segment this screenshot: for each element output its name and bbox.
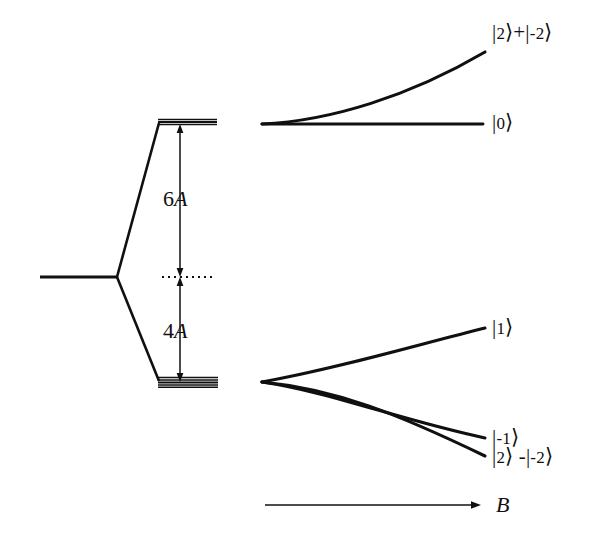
gap-4A-number: 4: [163, 318, 174, 343]
ket-part: ⟩+|: [505, 20, 530, 44]
ket-part: 0: [496, 114, 505, 133]
lower-level-multiplet: [158, 378, 218, 388]
gap-6A-label: 6A: [163, 188, 187, 210]
ket-part: ⟩: [505, 315, 513, 339]
curve-2-plus-minus2: [262, 52, 485, 124]
ket-part: -2: [530, 24, 545, 43]
state-label-0: |0⟩: [492, 112, 513, 133]
curve-2-minus-minus2: [262, 382, 485, 456]
zero-field-group: [40, 120, 218, 388]
zeeman-lower-group: [262, 328, 485, 456]
upper-branch-line: [117, 123, 159, 277]
state-label-2-minus-minus2: |2⟩ -|-2⟩: [492, 446, 553, 467]
ket-part: 2: [496, 24, 505, 43]
ket-part: 1: [496, 319, 505, 338]
state-label-2-plus-minus2: |2⟩+|-2⟩: [492, 22, 553, 43]
curve-1: [262, 328, 485, 382]
ket-part: ⟩: [505, 110, 513, 134]
gap-6A-symbol: A: [174, 186, 187, 211]
magnetic-field-axis-label: B: [496, 494, 509, 516]
gap-4A-symbol: A: [174, 318, 187, 343]
ket-part: ⟩ -|: [505, 444, 530, 468]
ket-part: -2: [530, 448, 545, 467]
lower-branch-line: [117, 277, 159, 381]
gap-4A-label: 4A: [163, 320, 187, 342]
state-label-1: |1⟩: [492, 317, 513, 338]
ket-part: ⟩: [545, 444, 553, 468]
gap-6A-number: 6: [163, 186, 174, 211]
zeeman-upper-group: [262, 52, 485, 124]
ket-part: ⟩: [544, 20, 552, 44]
upper-level-multiplet: [158, 120, 217, 125]
curve-minus1: [262, 382, 485, 438]
energy-level-diagram: 6A 4A |2⟩+|-2⟩ |0⟩ |1⟩ |-1⟩ |2⟩ -|-2⟩ B: [0, 0, 596, 553]
diagram-canvas: [0, 0, 596, 553]
magnetic-field-axis: [265, 501, 481, 508]
ket-part: 2: [496, 448, 505, 467]
